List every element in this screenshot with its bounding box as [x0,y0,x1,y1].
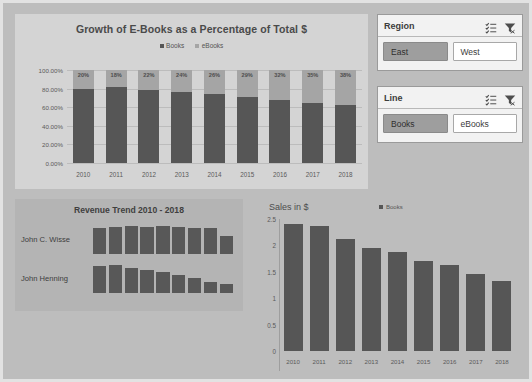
bar-data-label: 29% [237,72,258,78]
bar-data-label: 38% [335,72,356,78]
stacked-chart-legend: Books eBooks [15,42,368,49]
sales-chart-header: Sales in $ Books [249,199,523,219]
stacked-y-tick: 0.00% [45,160,63,167]
sales-axis-title: Sales in $ [269,202,309,212]
bar-segment-books[interactable] [73,89,94,163]
sparkline-bar [156,272,169,293]
slicer-line-header: Line [378,87,522,109]
sparkline-bar [204,228,217,254]
clear-filter-icon[interactable] [504,92,516,104]
sales-bar[interactable] [362,248,381,351]
bar-segment-ebooks[interactable]: 22% [138,70,159,90]
bar-segment-ebooks[interactable]: 20% [73,70,94,89]
stacked-bar-column[interactable]: 26% [204,70,225,163]
stacked-bar-column[interactable]: 35% [302,70,323,163]
stacked-bar-column[interactable]: 24% [171,70,192,163]
stacked-bar-column[interactable]: 29% [237,70,258,163]
sparkline-bar [156,226,169,254]
sparkline-bar [172,227,185,254]
stacked-x-tick: 2013 [171,171,192,178]
revenue-trend-rows: John C. WisseJohn Henning [15,221,243,293]
stacked-y-tick: 80.00% [42,85,63,92]
stacked-bar-column[interactable]: 38% [335,70,356,163]
stacked-x-tick: 2012 [138,171,159,178]
slicer-option-books[interactable]: Books [383,114,448,133]
bar-data-label: 22% [138,72,159,78]
legend-item-books: Books [160,42,185,49]
bar-segment-books[interactable] [269,100,290,163]
stacked-bar-column[interactable]: 20% [73,70,94,163]
clear-filter-icon[interactable] [504,20,516,32]
bar-segment-ebooks[interactable]: 29% [237,70,258,97]
slicer-option-ebooks[interactable]: eBooks [453,114,518,133]
bar-segment-ebooks[interactable]: 18% [106,70,127,87]
bar-data-label: 35% [302,72,323,78]
slicer-line[interactable]: Line [377,86,523,143]
sales-bar[interactable] [440,265,459,351]
bar-segment-books[interactable] [335,105,356,163]
sales-y-tick: 0.5 [267,321,276,328]
sparkline-bar [140,270,153,293]
stacked-x-tick: 2016 [269,171,290,178]
sales-bar[interactable] [284,224,303,351]
sales-y-tick: 1.5 [267,268,276,275]
sparkline [93,226,243,254]
sparkline [93,265,243,293]
sales-bar[interactable] [336,239,355,351]
slicer-option-west[interactable]: West [453,42,518,61]
slicer-region[interactable]: Region [377,14,523,71]
sales-bar-chart[interactable]: Sales in $ Books 2.521.510.50 2010201120… [249,199,523,371]
sparkline-bar [188,278,201,293]
stacked-x-tick: 2010 [73,171,94,178]
legend-label-books: Books [166,42,184,49]
bar-data-label: 18% [106,72,127,78]
sales-bar[interactable] [414,261,433,351]
bar-segment-books[interactable] [204,94,225,163]
stacked-bar-column[interactable]: 32% [269,70,290,163]
bar-segment-ebooks[interactable]: 35% [302,70,323,103]
sales-bar[interactable] [492,281,511,351]
bar-segment-books[interactable] [106,87,127,163]
stacked-x-tick: 2014 [204,171,225,178]
bar-segment-ebooks[interactable]: 24% [171,70,192,92]
trend-row[interactable]: John C. Wisse [15,221,243,254]
legend-swatch-ebooks [195,44,199,48]
sales-bar[interactable] [310,226,329,351]
stacked-bars: 20%18%22%24%26%29%32%35%38% [67,70,362,163]
bar-segment-books[interactable] [302,103,323,163]
sales-bar[interactable] [388,252,407,351]
sparkline-bar [220,236,233,254]
sparkline-bar [109,265,122,293]
stacked-x-tick: 2011 [106,171,127,178]
bar-segment-books[interactable] [138,90,159,163]
sales-y-tick: 1 [272,295,276,302]
sales-plot: 201020112012201320142015201620172018 [279,219,523,371]
stacked-plot: 20%18%22%24%26%29%32%35%38% 201020112012… [67,70,362,185]
stacked-bar-chart[interactable]: Growth of E-Books as a Percentage of Tot… [15,14,368,189]
stacked-y-tick: 60.00% [42,104,63,111]
sales-y-tick: 2.5 [267,216,276,223]
slicer-line-title: Line [384,93,485,103]
bar-segment-books[interactable] [171,92,192,163]
multi-select-icon[interactable] [485,92,497,104]
trend-row-name: John Henning [21,274,93,293]
bar-segment-ebooks[interactable]: 32% [269,70,290,100]
stacked-bar-column[interactable]: 22% [138,70,159,163]
bar-data-label: 26% [204,72,225,78]
stacked-x-tick: 2017 [302,171,323,178]
stacked-bar-column[interactable]: 18% [106,70,127,163]
bar-segment-ebooks[interactable]: 38% [335,70,356,105]
legend-label-books: Books [386,204,403,210]
sales-x-tick: 2017 [466,358,485,365]
slicer-option-east[interactable]: East [383,42,448,61]
multi-select-icon[interactable] [485,20,497,32]
legend-item-ebooks: eBooks [195,42,223,49]
revenue-trend-panel[interactable]: Revenue Trend 2010 - 2018 John C. WisseJ… [15,199,243,311]
sales-x-tick: 2018 [492,358,511,365]
stacked-y-tick: 100.00% [39,67,63,74]
sales-bar[interactable] [466,274,485,351]
bar-segment-books[interactable] [237,97,258,163]
bar-segment-ebooks[interactable]: 26% [204,70,225,94]
trend-row[interactable]: John Henning [15,260,243,293]
sales-y-tick: 2 [272,242,276,249]
